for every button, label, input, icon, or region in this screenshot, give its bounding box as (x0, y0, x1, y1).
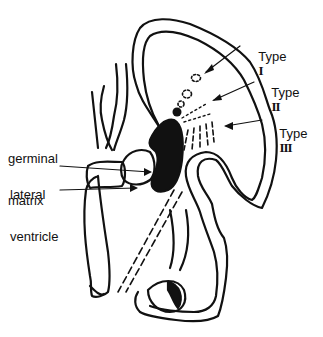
label-type-3: Type III (265, 113, 307, 169)
thalamus-contour (84, 176, 109, 297)
basal-fold-1 (170, 210, 174, 268)
callosum-block (87, 162, 125, 188)
midline-right-wall (101, 86, 112, 150)
label-lateral-ventricle: lateral ventricle (10, 160, 58, 272)
midline-left-wall (92, 92, 98, 148)
septum-wall (106, 64, 117, 148)
germinal-matrix (149, 120, 182, 192)
internal-capsule-dashes (118, 190, 182, 292)
type2-dotted-lines (182, 104, 210, 122)
type3-dashed-streaks (184, 122, 214, 150)
type1-dots (178, 75, 201, 108)
roman-numeral-2: II (271, 99, 279, 114)
basal-fold-2 (180, 210, 188, 270)
roman-numeral-3: III (279, 140, 291, 155)
lateral-ventricle (121, 150, 155, 184)
diagram-canvas: Type I Type II Type III germinal matrix … (0, 0, 323, 337)
hippocampus-crescent (168, 282, 181, 308)
hemorrhage-dot (173, 108, 182, 117)
